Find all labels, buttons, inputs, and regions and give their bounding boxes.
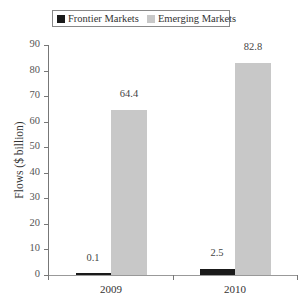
y-tick bbox=[44, 71, 49, 72]
legend-label-frontier: Frontier Markets bbox=[68, 13, 139, 24]
x-tick bbox=[48, 275, 49, 280]
y-tick bbox=[44, 122, 49, 123]
y-tick-label: 20 bbox=[18, 217, 40, 228]
y-tick-label: 70 bbox=[18, 89, 40, 100]
y-tick bbox=[44, 249, 49, 250]
y-tick bbox=[44, 147, 49, 148]
y-axis-title: Flows ($ billion) bbox=[13, 121, 25, 198]
x-tick-label-2009: 2009 bbox=[86, 283, 136, 295]
y-tick-label: 10 bbox=[18, 242, 40, 253]
value-label-emerging-2009: 64.4 bbox=[109, 88, 149, 99]
y-tick bbox=[44, 96, 49, 97]
bar-emerging-2010 bbox=[235, 63, 271, 275]
y-tick-label: 40 bbox=[18, 166, 40, 177]
value-label-frontier-2009: 0.1 bbox=[73, 252, 113, 263]
legend-label-emerging: Emerging Markets bbox=[158, 13, 236, 24]
legend-item-emerging: Emerging Markets bbox=[147, 13, 236, 24]
y-tick-label: 50 bbox=[18, 140, 40, 151]
x-tick bbox=[173, 275, 174, 280]
x-tick-label-2010: 2010 bbox=[210, 283, 260, 295]
x-tick bbox=[297, 275, 298, 280]
y-tick-label: 30 bbox=[18, 191, 40, 202]
y-tick-label: 80 bbox=[18, 64, 40, 75]
bar-frontier-2010 bbox=[200, 269, 235, 275]
y-tick bbox=[44, 224, 49, 225]
y-tick bbox=[44, 173, 49, 174]
bar-frontier-2009 bbox=[76, 273, 111, 275]
legend-item-frontier: Frontier Markets bbox=[57, 13, 139, 24]
bar-emerging-2009 bbox=[111, 110, 147, 275]
y-tick-label: 90 bbox=[18, 38, 40, 49]
legend-swatch-frontier bbox=[57, 15, 65, 23]
y-tick-label: 0 bbox=[18, 268, 40, 279]
y-tick bbox=[44, 198, 49, 199]
y-tick bbox=[44, 45, 49, 46]
y-axis-line bbox=[48, 45, 49, 276]
legend-swatch-emerging bbox=[147, 15, 155, 23]
value-label-emerging-2010: 82.8 bbox=[233, 41, 273, 52]
legend: Frontier Markets Emerging Markets bbox=[52, 10, 230, 27]
y-tick-label: 60 bbox=[18, 115, 40, 126]
value-label-frontier-2010: 2.5 bbox=[197, 247, 237, 258]
